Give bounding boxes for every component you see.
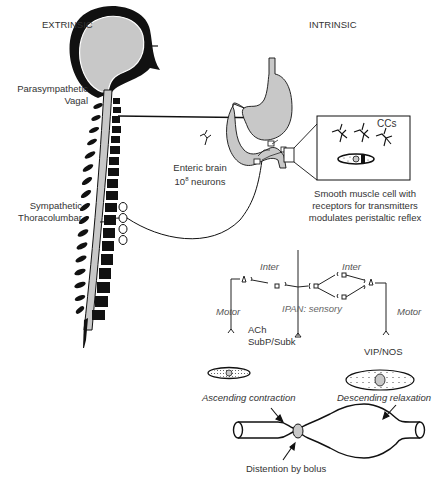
head-spine-illustration — [70, 6, 160, 348]
descending-relaxation-label: Descending relaxation — [337, 392, 431, 404]
motor-right-label: Motor — [397, 306, 421, 318]
extrinsic-heading: EXTRINSIC — [42, 19, 93, 31]
gut-tube-peristalsis — [234, 404, 425, 458]
enteric-brain-label: Enteric brain — [165, 162, 235, 174]
inter-left-label: Inter — [260, 261, 279, 273]
distention-by-bolus-label: Distention by bolus — [246, 463, 326, 475]
thoracolumbar-label: Thoracolumbar — [8, 212, 82, 224]
enteric-nervous-system-diagram: EXTRINSIC INTRINSIC Parasympathetic Vaga… — [0, 0, 447, 487]
smooth-muscle-caption-1: Smooth muscle cell with — [290, 188, 440, 200]
smooth-muscle-cell-inset — [338, 154, 374, 164]
smooth-muscle-caption-2: receptors for transmitters — [290, 200, 440, 212]
vip-nos-label: VIP/NOS — [364, 346, 403, 358]
enteric-neuron-glyph — [200, 130, 211, 145]
inter-right-label: Inter — [342, 261, 361, 273]
intrinsic-heading: INTRINSIC — [309, 19, 357, 31]
contraction-muscle-cell — [208, 368, 250, 379]
vagal-label: Vagal — [14, 95, 88, 107]
neuron-count-label: 108 neurons — [165, 174, 235, 188]
ccs-label: CCs — [377, 118, 396, 130]
ascending-contraction-label: Ascending contraction — [202, 392, 295, 404]
stomach-illustration — [227, 58, 294, 168]
smooth-muscle-caption-3: modulates peristaltic reflex — [290, 212, 440, 224]
parasympathetic-label: Parasympathetic — [14, 83, 88, 95]
subp-subk-label: SubP/Subk — [248, 336, 296, 348]
sympathetic-ganglia — [119, 203, 127, 245]
annotation-arrows — [271, 405, 396, 460]
diagram-artwork — [0, 0, 447, 487]
sympathetic-label: Sympathetic — [8, 200, 82, 212]
relaxation-muscle-cell — [346, 370, 414, 390]
motor-left-label: Motor — [216, 306, 240, 318]
ach-label: ACh — [248, 324, 266, 336]
ipan-sensory-label: IPAN: sensory — [282, 303, 342, 315]
